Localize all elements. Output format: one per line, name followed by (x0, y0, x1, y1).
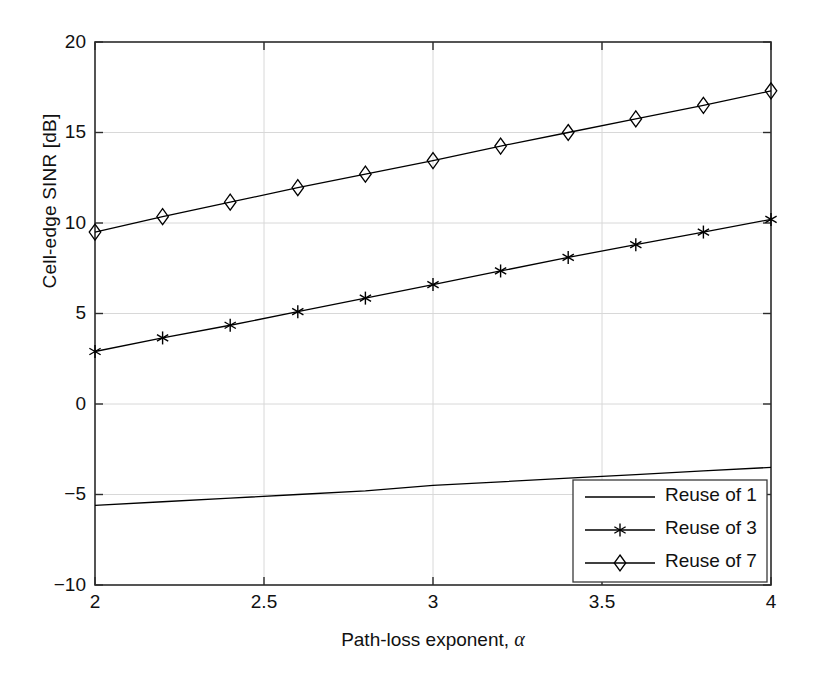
legend-item-reuse-of-7[interactable]: Reuse of 7 (665, 550, 757, 572)
figure-canvas: Cell-edge SINR [dB] 20 15 10 5 0 −5 −10 … (0, 0, 813, 674)
legend-item-reuse-of-3[interactable]: Reuse of 3 (665, 517, 757, 539)
legend-item-reuse-of-1[interactable]: Reuse of 1 (665, 484, 757, 506)
legend-box[interactable]: Reuse of 1 Reuse of 3 Reuse of 7 (573, 480, 767, 582)
